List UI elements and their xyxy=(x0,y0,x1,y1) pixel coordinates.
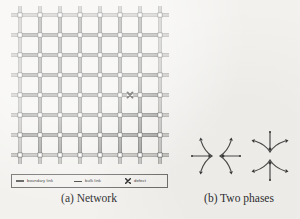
legend-label-boundary-link: boundary link xyxy=(27,175,53,187)
phase-horizontal xyxy=(191,138,241,175)
network-node xyxy=(58,13,62,17)
network-node xyxy=(118,113,122,117)
panel-network: boundary link bulk link defect (a) Netwo… xyxy=(0,0,178,219)
network-node xyxy=(38,133,42,137)
caption-network: (a) Network xyxy=(0,192,178,204)
network-node xyxy=(38,53,42,57)
network-node xyxy=(158,133,162,137)
network-links xyxy=(11,6,169,164)
network-node xyxy=(118,13,122,17)
network-node xyxy=(158,33,162,37)
network-node xyxy=(78,53,82,57)
network-node xyxy=(18,93,22,97)
defect-marker xyxy=(127,92,133,98)
network-node xyxy=(58,73,62,77)
network-node xyxy=(138,13,142,17)
network-node xyxy=(58,153,62,157)
network-node xyxy=(98,133,102,137)
network-node xyxy=(138,93,142,97)
network-node xyxy=(18,73,22,77)
network-node xyxy=(58,33,62,37)
two-phases-diagram xyxy=(178,124,300,190)
figure-root: boundary link bulk link defect (a) Netwo… xyxy=(0,0,300,219)
network-node xyxy=(158,73,162,77)
legend-item-boundary-link: boundary link xyxy=(16,175,53,187)
panel-two-phases: (b) Two phases xyxy=(178,0,300,219)
network-node xyxy=(138,113,142,117)
network-node xyxy=(18,53,22,57)
network-node xyxy=(118,93,122,97)
defect-swatch-icon xyxy=(125,178,131,184)
network-node xyxy=(98,13,102,17)
bulk-link-swatch-icon xyxy=(74,181,82,182)
network-node xyxy=(118,73,122,77)
legend: boundary link bulk link defect xyxy=(11,174,168,188)
network-node xyxy=(78,33,82,37)
caption-two-phases: (b) Two phases xyxy=(178,192,300,204)
network-diagram xyxy=(8,3,174,171)
network-node xyxy=(38,113,42,117)
network-node xyxy=(98,33,102,37)
legend-label-bulk-link: bulk link xyxy=(85,175,101,187)
network-node xyxy=(138,133,142,137)
network-node xyxy=(18,33,22,37)
network-node xyxy=(138,73,142,77)
network-node xyxy=(78,93,82,97)
network-node xyxy=(118,133,122,137)
network-node xyxy=(38,93,42,97)
network-node xyxy=(138,53,142,57)
network-node xyxy=(98,53,102,57)
network-node xyxy=(118,33,122,37)
network-node xyxy=(138,33,142,37)
network-nodes xyxy=(18,13,162,157)
network-node xyxy=(58,113,62,117)
network-node xyxy=(118,53,122,57)
network-node xyxy=(58,53,62,57)
network-node xyxy=(18,113,22,117)
network-node xyxy=(158,53,162,57)
network-node xyxy=(58,133,62,137)
network-node xyxy=(158,113,162,117)
legend-label-defect: defect xyxy=(134,175,146,187)
network-node xyxy=(78,13,82,17)
legend-item-defect: defect xyxy=(125,175,146,187)
network-node xyxy=(98,153,102,157)
phase-vertical xyxy=(252,131,289,181)
network-node xyxy=(98,113,102,117)
network-node xyxy=(78,73,82,77)
network-node xyxy=(78,133,82,137)
network-node xyxy=(98,93,102,97)
network-node xyxy=(138,153,142,157)
network-node xyxy=(18,153,22,157)
network-node xyxy=(158,153,162,157)
network-node xyxy=(38,33,42,37)
network-node xyxy=(78,113,82,117)
network-node xyxy=(78,153,82,157)
network-node xyxy=(158,13,162,17)
network-node xyxy=(18,133,22,137)
network-node xyxy=(118,153,122,157)
legend-item-bulk-link: bulk link xyxy=(74,175,101,187)
network-node xyxy=(38,73,42,77)
network-node xyxy=(158,93,162,97)
network-node xyxy=(58,93,62,97)
network-node xyxy=(38,153,42,157)
network-node xyxy=(18,13,22,17)
boundary-link-swatch-icon xyxy=(16,180,24,182)
network-node xyxy=(98,73,102,77)
network-node xyxy=(38,13,42,17)
